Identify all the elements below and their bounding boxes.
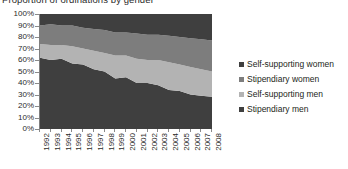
x-tick-label: 2007	[204, 133, 212, 151]
x-axis: 1992199319941995199619971998199920002001…	[39, 130, 211, 169]
legend-item[interactable]: Self-supporting women	[239, 57, 347, 72]
x-tick-mark	[168, 129, 169, 132]
x-tick-label: 2000	[129, 133, 137, 151]
x-tick-mark	[190, 129, 191, 132]
legend-swatch-icon	[239, 107, 244, 112]
legend-item[interactable]: Stipendiary men	[239, 102, 347, 117]
x-tick-label: 2003	[161, 133, 169, 151]
y-tick-label: 40%	[0, 79, 34, 87]
x-tick-label: 1996	[86, 133, 94, 151]
y-tick-label: 20%	[0, 102, 34, 110]
y-axis: 100%90%80%70%60%50%40%30%20%10%0%	[0, 14, 34, 129]
x-tick-label: 1998	[108, 133, 116, 151]
legend-swatch-icon	[239, 92, 244, 97]
x-tick-mark	[104, 129, 105, 132]
chart-legend: Self-supporting womenStipendiary womenSe…	[239, 57, 347, 117]
x-tick-mark	[136, 129, 137, 132]
x-tick-label: 2005	[183, 133, 191, 151]
chart-title: Proportion of ordinations by gender	[2, 0, 154, 5]
x-tick-mark	[50, 129, 51, 132]
legend-label: Stipendiary women	[247, 75, 319, 84]
y-tick-label: 10%	[0, 114, 34, 122]
y-tick-label: 70%	[0, 45, 34, 53]
y-tick-label: 60%	[0, 56, 34, 64]
x-tick-mark	[200, 129, 201, 132]
x-tick-label: 1994	[65, 133, 73, 151]
y-tick-label: 50%	[0, 68, 34, 76]
legend-swatch-icon	[239, 62, 244, 67]
legend-label: Stipendiary men	[247, 105, 308, 114]
x-tick-label: 2001	[140, 133, 148, 151]
y-tick-label: 80%	[0, 33, 34, 41]
legend-item[interactable]: Self-supporting men	[239, 87, 347, 102]
legend-label: Self-supporting men	[247, 90, 323, 99]
x-tick-label: 2006	[194, 133, 202, 151]
y-tick-label: 100%	[0, 10, 34, 18]
x-tick-mark	[61, 129, 62, 132]
x-tick-label: 2002	[151, 133, 159, 151]
x-tick-label: 2004	[172, 133, 180, 151]
x-tick-mark	[125, 129, 126, 132]
x-tick-mark	[147, 129, 148, 132]
x-tick-mark	[157, 129, 158, 132]
plot-svg	[40, 14, 212, 129]
legend-swatch-icon	[239, 77, 244, 82]
x-tick-mark	[211, 129, 212, 132]
legend-label: Self-supporting women	[247, 60, 334, 69]
plot-area	[39, 14, 211, 129]
x-tick-mark	[114, 129, 115, 132]
stacked-area-chart: Proportion of ordinations by gender 100%…	[0, 0, 348, 169]
x-tick-label: 1999	[118, 133, 126, 151]
y-tick-label: 30%	[0, 91, 34, 99]
x-tick-label: 1993	[54, 133, 62, 151]
x-tick-label: 1992	[43, 133, 51, 151]
legend-item[interactable]: Stipendiary women	[239, 72, 347, 87]
y-tick-label: 90%	[0, 22, 34, 30]
x-tick-mark	[82, 129, 83, 132]
x-tick-mark	[179, 129, 180, 132]
x-tick-label: 1995	[75, 133, 83, 151]
x-tick-mark	[93, 129, 94, 132]
x-tick-label: 2008	[215, 133, 223, 151]
y-tick-label: 0%	[0, 125, 34, 133]
x-tick-mark	[39, 129, 40, 132]
x-tick-label: 1997	[97, 133, 105, 151]
x-tick-mark	[71, 129, 72, 132]
